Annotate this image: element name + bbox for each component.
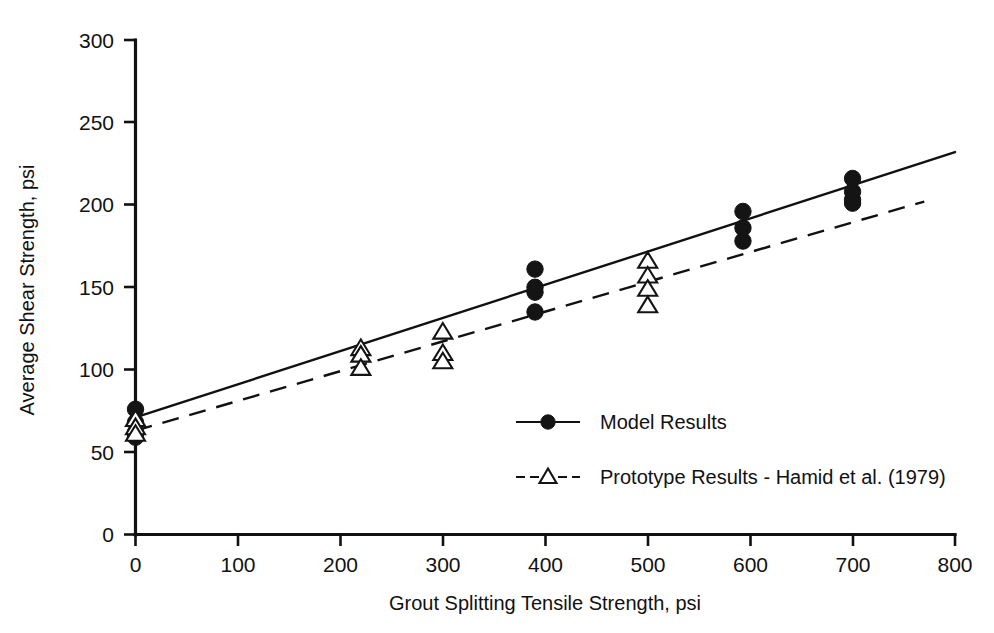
x-tick-label-300: 300: [425, 553, 460, 576]
x-tick-label-600: 600: [733, 553, 768, 576]
y-axis-title: Average Shear Strength, psi: [16, 165, 38, 416]
chart-figure: 0 50 100 150 200 250 300 0 100 200 300: [0, 0, 994, 633]
data-point-filled-circle: [527, 284, 543, 300]
y-tick-label-0: 0: [102, 523, 114, 546]
x-axis-title: Grout Splitting Tensile Strength, psi: [389, 592, 701, 614]
axes-group: [135, 40, 955, 535]
legend-label-prototype-results: Prototype Results - Hamid et al. (1979): [600, 466, 946, 488]
y-tick-label-300: 300: [79, 29, 114, 52]
y-tick-label-50: 50: [91, 441, 114, 464]
y-tick-label-200: 200: [79, 193, 114, 216]
x-tick-label-0: 0: [130, 553, 142, 576]
legend: Model Results Prototype Results - Hamid …: [516, 411, 946, 488]
data-point-open-triangle: [638, 297, 657, 313]
data-point-filled-circle: [735, 233, 751, 249]
x-tick-label-800: 800: [937, 553, 972, 576]
legend-marker-filled-circle: [541, 415, 555, 429]
data-point-open-triangle: [433, 323, 452, 339]
data-point-filled-circle: [844, 195, 860, 211]
x-tick-label-700: 700: [835, 553, 870, 576]
x-tick-labels-group: 0 100 200 300 400 500 600 700 800: [130, 553, 973, 576]
x-tick-label-500: 500: [630, 553, 665, 576]
legend-entry-model-results: Model Results: [516, 411, 727, 433]
scatter-plot-svg: 0 50 100 150 200 250 300 0 100 200 300: [0, 0, 994, 633]
data-points-group: [126, 170, 861, 445]
y-tick-labels-group: 0 50 100 150 200 250 300: [79, 29, 114, 546]
y-tick-label-150: 150: [79, 276, 114, 299]
fit-lines-group: [136, 152, 956, 431]
x-tick-label-200: 200: [323, 553, 358, 576]
y-tick-label-100: 100: [79, 358, 114, 381]
x-tick-label-100: 100: [220, 553, 255, 576]
legend-entry-prototype-results: Prototype Results - Hamid et al. (1979): [516, 466, 946, 488]
legend-marker-open-triangle: [540, 469, 557, 484]
trend-line-1: [136, 152, 956, 417]
x-tick-label-400: 400: [528, 553, 563, 576]
data-point-filled-circle: [527, 261, 543, 277]
y-tick-label-250: 250: [79, 111, 114, 134]
data-point-filled-circle: [527, 304, 543, 320]
legend-label-model-results: Model Results: [600, 411, 727, 433]
data-point-filled-circle: [735, 203, 751, 219]
